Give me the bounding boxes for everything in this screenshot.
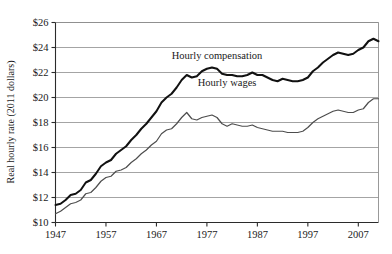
x-axis-ticks	[56, 223, 359, 227]
y-tick-label: $12	[33, 192, 49, 203]
y-axis-label: Real hourly rate (2011 dollars)	[5, 61, 17, 184]
y-tick-label: $26	[33, 17, 49, 28]
x-tick-label: 2007	[348, 229, 369, 240]
series-line	[56, 39, 379, 205]
y-tick-label: $10	[33, 217, 49, 228]
chart-figure: $10$12$14$16$18$20$22$24$26 194719571967…	[0, 0, 392, 254]
data-series	[56, 39, 379, 214]
line-chart: $10$12$14$16$18$20$22$24$26 194719571967…	[0, 0, 392, 254]
x-tick-label: 1957	[95, 229, 116, 240]
x-tick-label: 1977	[196, 229, 217, 240]
series-line	[56, 99, 379, 214]
x-axis-tick-labels: 1947195719671977198719972007	[45, 229, 369, 240]
x-tick-label: 1947	[45, 229, 66, 240]
y-tick-label: $20	[33, 92, 49, 103]
y-axis-tick-labels: $10$12$14$16$18$20$22$24$26	[33, 17, 50, 228]
y-tick-label: $22	[33, 67, 49, 78]
y-axis-ticks	[52, 23, 56, 223]
y-tick-label: $16	[33, 142, 49, 153]
x-tick-label: 1997	[297, 229, 318, 240]
y-tick-label: $18	[33, 117, 49, 128]
y-tick-label: $14	[33, 167, 50, 178]
series-annotation-label: Hourly wages	[198, 77, 257, 88]
grid-lines	[56, 23, 379, 198]
series-annotation-label: Hourly compensation	[172, 50, 263, 61]
x-tick-label: 1967	[146, 229, 167, 240]
x-tick-label: 1987	[247, 229, 268, 240]
y-tick-label: $24	[33, 42, 50, 53]
